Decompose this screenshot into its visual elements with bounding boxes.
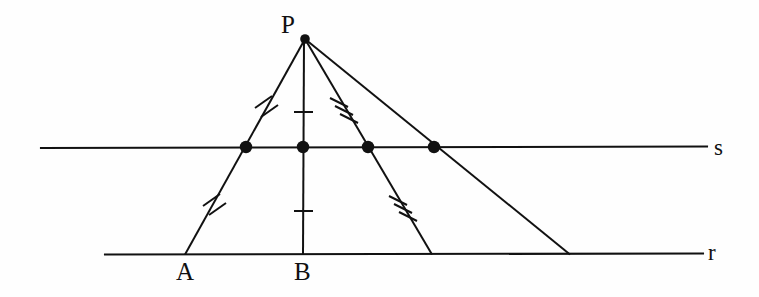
dot-intersection-PC-s — [362, 141, 374, 153]
geometry-figure: P A B s r — [0, 0, 759, 297]
dot-intersection-PB-s — [297, 141, 309, 153]
dot-intersection-PD-s — [428, 141, 440, 153]
label-line-s: s — [714, 136, 723, 159]
label-line-r: r — [708, 241, 716, 264]
dot-apex-P — [300, 34, 310, 44]
label-point-p: P — [281, 12, 295, 37]
geometry-canvas — [0, 0, 759, 297]
label-point-b: B — [294, 259, 311, 284]
dot-intersection-PA-s — [240, 141, 252, 153]
line-r — [105, 254, 703, 255]
tick-PC-upper — [330, 98, 358, 123]
tick-PC-lower — [389, 196, 417, 221]
label-point-a: A — [176, 259, 194, 284]
tick-PA-lower — [203, 194, 226, 215]
